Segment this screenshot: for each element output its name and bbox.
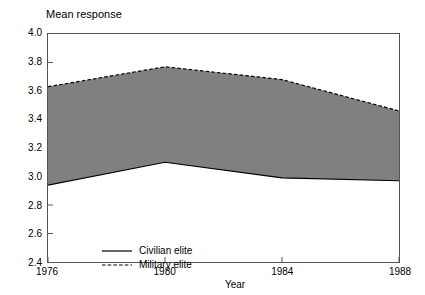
y-axis-tick-3.4: 3.4: [8, 114, 42, 124]
y-axis-tick-4.0: 4.0: [8, 28, 42, 38]
y-axis-tick-2.8: 2.8: [8, 201, 42, 211]
x-axis-tick-1980: 1980: [154, 266, 176, 277]
between-series-band: [48, 67, 399, 185]
x-axis-tick-labels: 1976198019841988: [0, 266, 425, 280]
legend-label-civilian-elite: Civilian elite: [139, 244, 192, 258]
y-axis-tick-3.8: 3.8: [8, 57, 42, 67]
plot-area: Civilian elite Military elite: [47, 33, 400, 263]
y-axis-tick-labels: 2.42.62.83.03.23.43.63.84.0: [4, 33, 42, 263]
x-axis-title: Year: [0, 279, 425, 290]
x-axis-tick-1988: 1988: [389, 266, 411, 277]
y-axis-tick-3.2: 3.2: [8, 143, 42, 153]
x-axis-title-label: Year: [225, 279, 245, 290]
legend-item-civilian-elite: Civilian elite: [101, 244, 192, 258]
x-axis-tick-1984: 1984: [271, 266, 293, 277]
chart-title: Mean response: [46, 8, 122, 20]
chart-figure: Mean response 2.42.62.83.03.23.43.63.84.…: [0, 0, 425, 295]
y-axis-tick-3.6: 3.6: [8, 86, 42, 96]
y-axis-tick-2.6: 2.6: [8, 229, 42, 239]
chart-plot-svg: [48, 34, 399, 262]
x-axis-tick-1976: 1976: [36, 266, 58, 277]
y-axis-tick-3.0: 3.0: [8, 172, 42, 182]
legend-key-solid-line-icon: [101, 246, 133, 256]
